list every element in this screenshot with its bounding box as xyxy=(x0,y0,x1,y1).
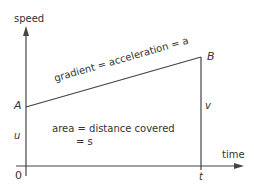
speed-time-graph: speed time 0 A B u v t gradient = accele… xyxy=(0,0,254,187)
point-a-label: A xyxy=(14,101,22,111)
x-axis-label: time xyxy=(222,150,245,160)
time-value-label: t xyxy=(199,172,203,182)
point-b-label: B xyxy=(207,52,215,62)
origin-label: 0 xyxy=(15,171,22,181)
graph-canvas xyxy=(0,0,254,187)
y-axis-arrow-icon xyxy=(23,26,29,36)
x-axis-arrow-icon xyxy=(234,163,244,169)
area-annotation-line2: = s xyxy=(76,137,93,147)
y-axis-label: speed xyxy=(14,14,44,24)
initial-speed-label: u xyxy=(14,131,20,141)
area-annotation-line1: area = distance covered xyxy=(52,124,175,134)
final-speed-label: v xyxy=(205,101,211,111)
